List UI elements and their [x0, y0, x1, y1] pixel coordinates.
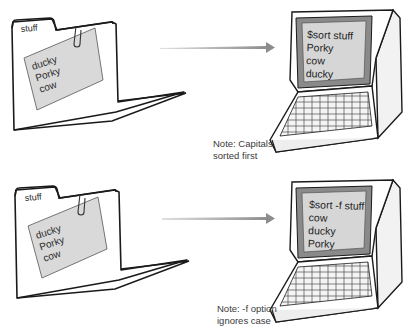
panel-sort-fold-case: stuff ducky Porky cow $sort -f stuff cow… — [15, 180, 402, 326]
note-line: Note: Capitals — [213, 138, 273, 149]
terminal-output-line: Porky — [308, 237, 336, 250]
note-line: ignores case — [217, 315, 271, 326]
folder-tab-label: stuff — [24, 192, 42, 203]
terminal-output-line: Porky — [306, 41, 334, 54]
arrow-right-icon — [162, 213, 275, 224]
note-line: Note: -f option — [217, 303, 277, 314]
terminal-output-line: ducky — [306, 67, 335, 80]
svg-text:Note: -f option ignores: Note: -f option ignores case — [217, 303, 279, 326]
terminal-output-line: cow — [308, 211, 327, 224]
panel-sort-default: stuff ducky Porky cow $sort stuff Porky … — [12, 10, 402, 161]
terminal-command: $sort stuff — [307, 28, 353, 42]
svg-text:Note: Capitals sorted fi: Note: Capitals sorted first — [213, 138, 275, 161]
arrow-right-icon — [160, 42, 275, 53]
sort-illustration: stuff ducky Porky cow $sort stuff Porky … — [0, 0, 406, 335]
folder-tab-label: stuff — [20, 23, 38, 34]
terminal-output-line: cow — [306, 54, 325, 67]
terminal-command: $sort -f stuff — [309, 198, 365, 212]
terminal-output-line: ducky — [308, 224, 337, 237]
note-line: sorted first — [213, 150, 258, 161]
